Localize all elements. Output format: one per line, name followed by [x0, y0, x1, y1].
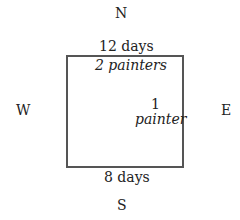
bottom-edge-label: 8 days [104, 169, 150, 185]
compass-north: N [115, 5, 127, 21]
right-inner-number: 1 [151, 96, 160, 112]
top-edge-label: 12 days [99, 38, 154, 54]
top-inner-label: 2 painters [95, 57, 167, 73]
right-inner-word: painter [135, 111, 186, 127]
compass-west: W [16, 102, 30, 118]
compass-south: S [117, 197, 127, 213]
compass-east: E [221, 102, 231, 118]
